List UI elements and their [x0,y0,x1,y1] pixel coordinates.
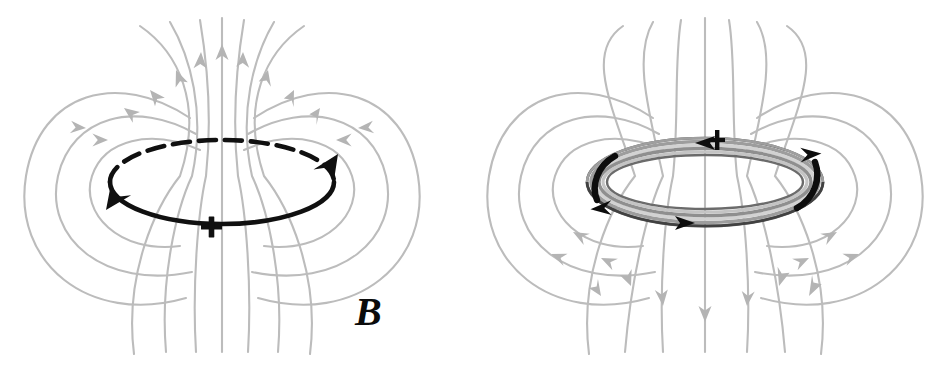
field-arrowhead [70,121,86,133]
field-line-loop [751,116,891,275]
field-arrowhead [598,253,618,271]
panel-gravitomagnetic-dipole: Bg [467,0,934,366]
field-arrowhead [307,105,323,125]
field-line-loop [90,139,200,247]
field-line-loop [519,116,659,275]
field-arrowhead [124,103,143,123]
field-line [662,20,681,352]
rotation-marker-back-cross [711,138,725,142]
field-arrowhead [336,134,352,147]
field-lines-group [487,18,922,354]
field-arrowhead [173,69,188,88]
field-line-loop [248,116,388,275]
field-arrowhead [358,121,374,133]
positive-charge-marker [201,216,222,237]
field-label-b-letter: B [355,289,382,334]
field-line [195,20,209,352]
panel-magnetic-dipole: B [0,0,467,366]
field-line [729,20,748,352]
physics-field-diagram: B [0,0,934,366]
field-line [235,20,249,352]
field-arrowhead [792,253,812,271]
field-label-b: B [355,292,382,332]
field-arrowhead [92,134,108,147]
